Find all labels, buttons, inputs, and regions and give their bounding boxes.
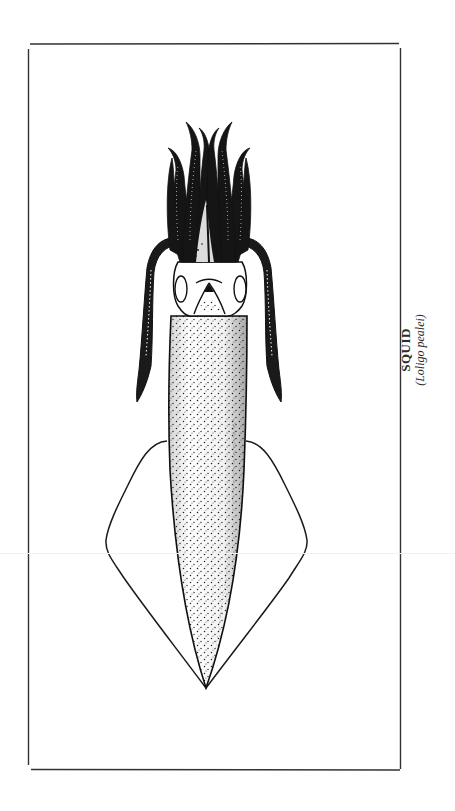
eye-left xyxy=(175,276,187,302)
scan-artifact-line xyxy=(0,553,455,554)
squid-illustration xyxy=(0,0,455,811)
caption-title: SQUID xyxy=(398,285,413,415)
figure-caption: SQUID (Loligo pealei) xyxy=(398,285,428,415)
eye-right xyxy=(234,276,246,302)
illustration-plate xyxy=(0,0,455,811)
caption-scientific-name: (Loligo pealei) xyxy=(413,285,428,415)
